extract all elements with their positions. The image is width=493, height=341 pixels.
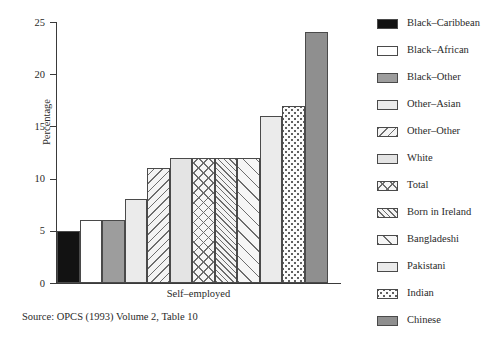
bar xyxy=(102,220,125,283)
legend-item: Indian xyxy=(377,280,493,307)
legend-swatch-icon xyxy=(377,154,398,164)
legend-swatch-icon xyxy=(377,46,398,56)
legend-swatch-icon xyxy=(377,262,398,272)
legend-item: Other–Other xyxy=(377,118,493,145)
bar xyxy=(57,231,80,283)
bar xyxy=(215,158,238,283)
y-axis-tick-label: 0 xyxy=(40,278,45,289)
y-axis-tick-label: 5 xyxy=(40,226,45,237)
legend-label: Black–Caribbean xyxy=(407,18,480,29)
legend-item: Chinese xyxy=(377,307,493,334)
legend-label: Born in Ireland xyxy=(407,207,471,218)
bar xyxy=(237,158,260,283)
bar xyxy=(147,168,170,283)
bar xyxy=(80,220,103,283)
bar xyxy=(125,199,148,283)
legend-label: Indian xyxy=(407,288,434,299)
legend-swatch-icon xyxy=(377,235,398,245)
legend-label: Bangladeshi xyxy=(407,234,459,245)
legend-item: Total xyxy=(377,172,493,199)
legend-item: Black–Other xyxy=(377,64,493,91)
legend-swatch-icon xyxy=(377,289,398,299)
bar xyxy=(282,106,305,283)
y-axis-tick: 0 xyxy=(50,283,56,284)
bar xyxy=(260,116,283,283)
legend-label: White xyxy=(407,153,433,164)
legend-label: Total xyxy=(407,180,428,191)
legend-swatch-icon xyxy=(377,73,398,83)
legend-label: Pakistani xyxy=(407,261,446,272)
x-axis-title: Self–employed xyxy=(56,288,341,299)
legend-label: Black–African xyxy=(407,45,469,56)
bar xyxy=(305,32,328,283)
legend-label: Chinese xyxy=(407,315,441,326)
legend-item: White xyxy=(377,145,493,172)
x-axis-line xyxy=(56,283,341,284)
legend-item: Black–Caribbean xyxy=(377,10,493,37)
legend-item: Other–Asian xyxy=(377,91,493,118)
bar-chart-figure: 0510152025 Percentage Self–employed Sour… xyxy=(0,0,493,341)
legend-swatch-icon xyxy=(377,316,398,326)
chart-legend: Black–CaribbeanBlack–AfricanBlack–OtherO… xyxy=(377,10,493,334)
legend-swatch-icon xyxy=(377,19,398,29)
legend-swatch-icon xyxy=(377,127,398,137)
legend-item: Pakistani xyxy=(377,253,493,280)
legend-label: Black–Other xyxy=(407,72,461,83)
legend-swatch-icon xyxy=(377,181,398,191)
y-axis-tick: 25 xyxy=(50,22,56,23)
legend-item: Black–African xyxy=(377,37,493,64)
legend-label: Other–Other xyxy=(407,126,460,137)
legend-swatch-icon xyxy=(377,208,398,218)
y-axis-title: Percentage xyxy=(41,67,52,177)
legend-swatch-icon xyxy=(377,100,398,110)
bar-series xyxy=(57,22,340,283)
legend-item: Bangladeshi xyxy=(377,226,493,253)
legend-item: Born in Ireland xyxy=(377,199,493,226)
legend-label: Other–Asian xyxy=(407,99,461,110)
y-axis-tick: 5 xyxy=(50,231,56,232)
bar xyxy=(170,158,193,283)
y-axis-tick: 10 xyxy=(50,179,56,180)
bar xyxy=(192,158,215,283)
source-note: Source: OPCS (1993) Volume 2, Table 10 xyxy=(22,311,198,322)
y-axis-tick-label: 25 xyxy=(35,17,46,28)
